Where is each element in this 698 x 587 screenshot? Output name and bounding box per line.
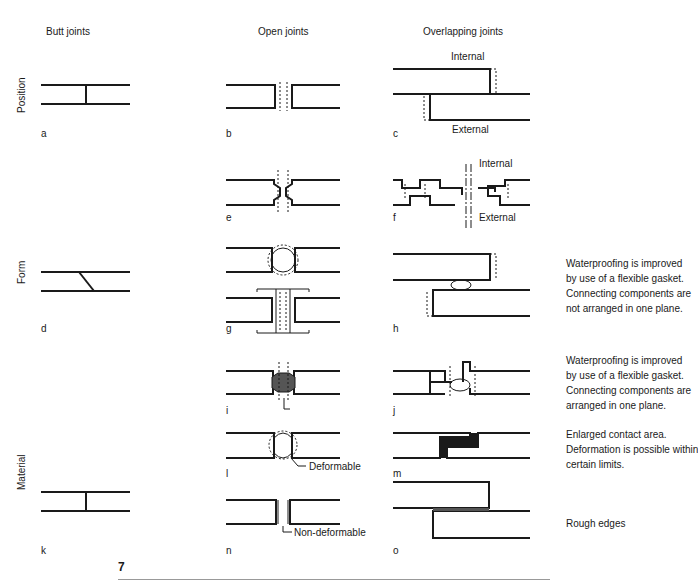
annotation-c-external: External — [452, 124, 489, 136]
annotation-f-external: External — [479, 212, 516, 224]
note-m-line-3: certain limits. — [566, 457, 698, 472]
panel-label-k: k — [41, 545, 46, 557]
panel-label-c: c — [393, 128, 398, 140]
annotation-f-internal: Internal — [479, 158, 512, 170]
footer-rule — [118, 579, 550, 580]
note-m: Enlarged contact area. Deformation is po… — [566, 427, 698, 472]
note-h-line-2: by use of a flexible gasket. — [566, 271, 691, 286]
annotation-c-internal: Internal — [451, 51, 484, 63]
panel-label-f: f — [393, 212, 396, 224]
panel-label-m: m — [393, 468, 401, 480]
panel-label-g: g — [226, 323, 232, 335]
note-j-line-4: arranged in one plane. — [566, 398, 691, 413]
note-h-line-4: not arranged in one plane. — [566, 301, 691, 316]
joint-c-overlapping-position — [393, 69, 530, 120]
joint-a-butt-position — [41, 85, 130, 104]
note-j-line-1: Waterproofing is improved — [566, 353, 691, 368]
panel-label-i: i — [226, 405, 228, 417]
note-j-line-2: by use of a flexible gasket. — [566, 368, 691, 383]
panel-label-d: d — [41, 323, 47, 335]
panel-label-l: l — [226, 468, 228, 480]
panel-label-o: o — [393, 545, 399, 557]
joint-o-overlapping-rough — [393, 482, 530, 538]
note-j-line-3: Connecting components are — [566, 383, 691, 398]
note-m-line-2: Deformation is possible within — [566, 442, 698, 457]
note-h: Waterproofing is improved by use of a fl… — [566, 256, 691, 316]
note-o-line-1: Rough edges — [566, 516, 626, 531]
note-j: Waterproofing is improved by use of a fl… — [566, 353, 691, 413]
figure-number: 7 — [118, 560, 125, 574]
annotation-l-deformable: Deformable — [309, 461, 361, 473]
panel-label-h: h — [393, 323, 399, 335]
panel-label-b: b — [226, 128, 232, 140]
joint-j-overlapping-gasket-plane — [393, 362, 530, 398]
note-m-line-1: Enlarged contact area. — [566, 427, 698, 442]
note-h-line-1: Waterproofing is improved — [566, 256, 691, 271]
joint-k-butt-material — [41, 492, 130, 511]
joint-m-overlapping-contact — [393, 433, 530, 458]
joint-b-open-position — [226, 82, 340, 111]
joint-d-butt-form — [41, 272, 130, 291]
panel-label-j: j — [393, 405, 395, 417]
panel-label-n: n — [226, 545, 232, 557]
joint-i-open-solid-gasket — [226, 362, 340, 409]
joint-e-open-form — [226, 170, 340, 214]
panel-label-e: e — [226, 212, 232, 224]
annotation-n-nondeformable: Non-deformable — [294, 527, 366, 539]
joint-g-open-gasket — [226, 245, 340, 333]
panel-label-a: a — [41, 128, 47, 140]
note-h-line-3: Connecting components are — [566, 286, 691, 301]
note-o: Rough edges — [566, 516, 626, 531]
joint-h-overlapping-gasket — [393, 254, 530, 316]
